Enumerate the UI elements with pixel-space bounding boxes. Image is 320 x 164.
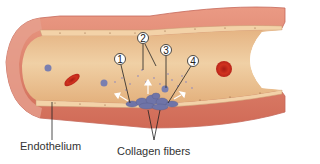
- red-blood-cell-right: [216, 61, 232, 77]
- svg-text:2: 2: [140, 33, 146, 44]
- callout-4: 4: [188, 56, 199, 67]
- svg-text:4: 4: [190, 56, 196, 67]
- svg-text:3: 3: [163, 45, 169, 56]
- vessel-lumen: [22, 30, 282, 104]
- callout-1: 1: [115, 54, 126, 65]
- callout-2: 2: [138, 33, 149, 44]
- endothelium-label: Endothelium: [20, 140, 81, 152]
- collagen-fibers-label: Collagen fibers: [117, 145, 190, 157]
- svg-text:1: 1: [117, 54, 123, 65]
- callout-3: 3: [161, 45, 172, 56]
